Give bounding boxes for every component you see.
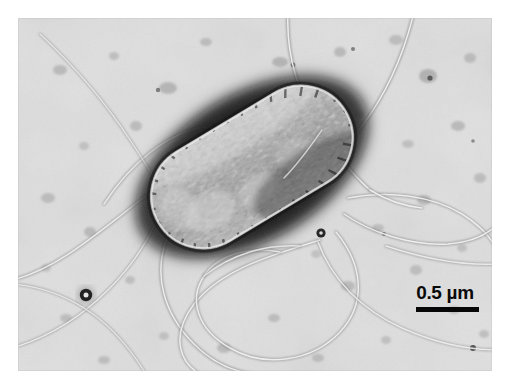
scale-bar-rule [416, 307, 479, 312]
scale-bar-label: 0.5 µm [404, 283, 486, 303]
figure-root: 0.5 µm [0, 0, 505, 392]
scale-bar: 0.5 µm [404, 283, 486, 319]
